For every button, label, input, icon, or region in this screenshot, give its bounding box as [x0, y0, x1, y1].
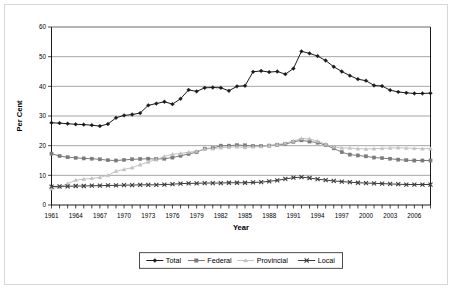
legend-label-total[interactable]: Total [166, 256, 182, 265]
marker-square [348, 153, 351, 156]
marker-square [106, 159, 109, 162]
marker-square [171, 156, 174, 159]
marker-diamond [82, 123, 86, 127]
marker-square [139, 157, 142, 160]
marker-square [66, 156, 69, 159]
x-tick-label: 1991 [286, 212, 301, 219]
marker-diamond [429, 91, 433, 95]
y-tick-label: 10 [39, 172, 47, 179]
x-tick-label: 1985 [238, 212, 253, 219]
marker-square [50, 152, 53, 155]
x-tick-label: 2000 [359, 212, 374, 219]
marker-diamond [98, 124, 102, 128]
marker-diamond [66, 122, 70, 126]
legend-label-provincial[interactable]: Provincial [257, 256, 289, 265]
x-tick-label: 1964 [69, 212, 84, 219]
x-tick-label: 1961 [44, 212, 59, 219]
y-tick-label: 40 [39, 83, 47, 90]
marker-diamond [356, 77, 360, 81]
marker-square [131, 158, 134, 161]
marker-square [58, 154, 61, 157]
marker-diamond [74, 122, 78, 126]
marker-square [98, 158, 101, 161]
legend-label-local[interactable]: Local [318, 256, 336, 265]
marker-diamond [195, 89, 199, 93]
x-tick-label: 1973 [141, 212, 156, 219]
marker-diamond [404, 91, 408, 95]
marker-diamond [275, 70, 279, 74]
x-tick-label: 1979 [190, 212, 205, 219]
marker-square [74, 156, 77, 159]
marker-diamond [227, 89, 231, 93]
marker-diamond [122, 114, 126, 118]
x-axis-title: Year [233, 223, 249, 232]
x-tick-label: 2003 [383, 212, 398, 219]
marker-diamond [316, 54, 320, 58]
marker-diamond [308, 52, 312, 56]
marker-diamond [421, 92, 425, 96]
marker-diamond [162, 100, 166, 104]
x-tick-label: 1988 [262, 212, 277, 219]
marker-square [364, 155, 367, 158]
marker-square [114, 159, 117, 162]
y-tick-label: 50 [39, 53, 47, 60]
x-tick-label: 1994 [311, 212, 326, 219]
x-tick-label: 1997 [335, 212, 350, 219]
marker-square [122, 158, 125, 161]
marker-diamond [58, 121, 62, 125]
x-tick-label: 1976 [165, 212, 180, 219]
marker-diamond [235, 84, 239, 88]
x-tick-label: 2006 [407, 212, 422, 219]
marker-diamond [396, 90, 400, 94]
chart-container: 0102030405060196119641967197019731976197… [0, 0, 454, 291]
marker-diamond [267, 70, 271, 74]
marker-square [90, 157, 93, 160]
marker-square [195, 259, 198, 262]
marker-square [356, 154, 359, 157]
marker-diamond [348, 74, 352, 78]
marker-square [372, 156, 375, 159]
x-tick-label: 1970 [117, 212, 132, 219]
marker-square [381, 157, 384, 160]
marker-square [82, 157, 85, 160]
line-chart: 0102030405060196119641967197019731976197… [0, 0, 454, 291]
y-tick-label: 0 [42, 201, 46, 208]
marker-square [429, 159, 432, 162]
x-tick-label: 1967 [93, 212, 108, 219]
y-axis-title: Per Cent [15, 100, 24, 132]
series-line-total [52, 51, 431, 126]
legend-label-federal[interactable]: Federal [207, 256, 232, 265]
marker-square [405, 159, 408, 162]
marker-diamond [50, 121, 54, 125]
series-line-provincial [52, 139, 431, 189]
marker-square [413, 159, 416, 162]
y-tick-label: 20 [39, 142, 47, 149]
marker-square [389, 157, 392, 160]
marker-diamond [90, 123, 94, 127]
marker-square [421, 159, 424, 162]
y-tick-label: 30 [39, 112, 47, 119]
marker-diamond [412, 92, 416, 96]
marker-diamond [300, 49, 304, 53]
marker-diamond [154, 102, 158, 106]
x-tick-label: 1982 [214, 212, 229, 219]
marker-diamond [380, 84, 384, 88]
marker-diamond [259, 69, 263, 73]
marker-square [340, 151, 343, 154]
marker-square [397, 158, 400, 161]
y-tick-label: 60 [39, 23, 47, 30]
marker-diamond [388, 88, 392, 92]
